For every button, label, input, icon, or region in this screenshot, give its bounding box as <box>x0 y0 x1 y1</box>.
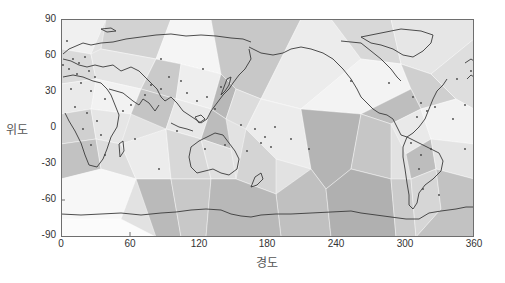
x-tick-60: 60 <box>115 238 145 249</box>
voronoi-cells <box>61 19 474 237</box>
map-plot-area <box>61 19 474 237</box>
x-axis-label: 경도 <box>256 253 278 270</box>
x-tick-180: 180 <box>252 238 282 249</box>
y-tick-0: 0 <box>30 121 56 132</box>
y-tick-90: 90 <box>30 13 56 24</box>
y-tick-60: 60 <box>30 49 56 60</box>
x-tick-240: 240 <box>321 238 351 249</box>
x-tick-120: 120 <box>184 238 214 249</box>
y-tick-30: 30 <box>30 85 56 96</box>
x-tick-300: 300 <box>390 238 420 249</box>
x-tick-0: 0 <box>46 238 76 249</box>
x-tick-360: 360 <box>459 238 489 249</box>
y-axis-label: 위도 <box>6 120 28 137</box>
map-figure: 90 60 30 0 -30 -60 -90 0 60 120 180 240 … <box>0 0 505 283</box>
y-tick-neg60: -60 <box>30 193 56 204</box>
y-tick-neg30: -30 <box>30 157 56 168</box>
